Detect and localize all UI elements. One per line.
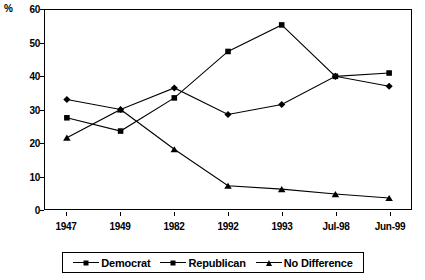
x-tick-label: 1949 [109,221,130,232]
data-point-marker [63,96,70,103]
x-tick-mark [390,212,391,216]
y-tick-label: 40 [18,71,40,82]
y-tick-label: 30 [18,104,40,115]
legend-entry: Democrat [73,257,150,269]
x-tick-label: Jul-98 [322,221,349,232]
data-point-marker [172,95,178,101]
x-tick-label: 1992 [217,221,238,232]
data-point-marker [278,101,285,108]
data-point-marker [64,115,70,121]
y-tick-label: 60 [18,4,40,15]
y-axis-tick-labels: 0102030405060 [0,0,40,280]
legend-label: No Difference [284,257,353,269]
legend-label: Republican [188,257,245,269]
data-point-marker [224,111,231,118]
x-tick-label: 1982 [163,221,184,232]
plot-svg [45,10,411,209]
square-icon [160,257,186,269]
y-tick-label: 10 [18,171,40,182]
plot-area [44,9,412,210]
x-tick-mark [282,212,283,216]
x-tick-mark [336,212,337,216]
data-point-marker [118,128,124,134]
y-tick-mark [40,210,44,211]
data-point-marker [386,70,392,76]
legend-entry: No Difference [256,257,353,269]
triangle-icon [256,257,282,269]
y-tick-label: 20 [18,138,40,149]
x-axis-tick-labels: 19471949198219921993Jul-98Jun-99 [44,212,412,234]
data-point-marker [63,135,71,141]
data-point-marker [225,49,231,55]
series-no-difference [63,106,393,201]
x-tick-mark [174,212,175,216]
data-point-marker [333,74,339,80]
x-tick-label: 1993 [271,221,292,232]
series-democrat [63,73,392,118]
diamond-icon [73,257,99,269]
data-point-marker [279,22,285,28]
legend-entry: Republican [160,257,245,269]
x-tick-mark [66,212,67,216]
y-tick-label: 0 [18,205,40,216]
legend-label: Democrat [101,257,150,269]
x-tick-mark [120,212,121,216]
series-line [67,76,389,114]
chart-legend: DemocratRepublicanNo Difference [62,252,364,273]
x-tick-label: Jun-99 [375,221,405,232]
x-tick-label: 1947 [55,221,76,232]
data-point-marker [171,84,178,91]
data-point-marker [386,83,393,90]
y-tick-label: 50 [18,37,40,48]
line-chart: % 0102030405060 19471949198219921993Jul-… [0,0,425,280]
x-tick-mark [228,212,229,216]
